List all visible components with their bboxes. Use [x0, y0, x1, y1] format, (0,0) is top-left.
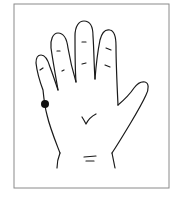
acupoint-marker — [41, 100, 49, 108]
hand-illustration — [0, 0, 179, 197]
